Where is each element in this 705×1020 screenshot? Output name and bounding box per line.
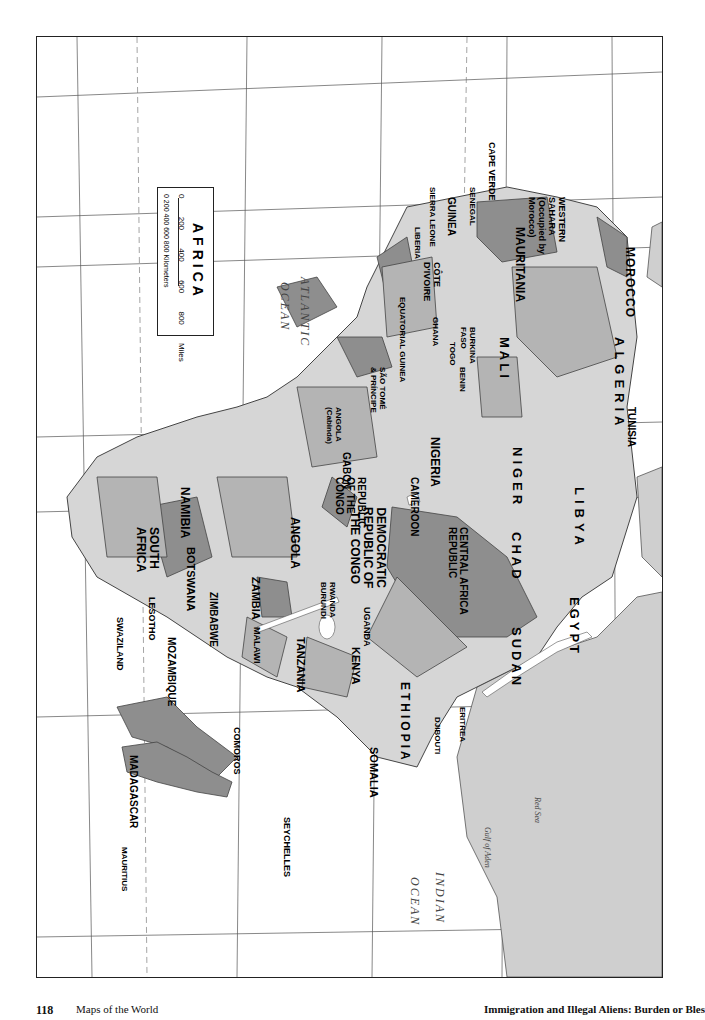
label-algeria: ALGERIA [612, 337, 627, 431]
label-tunisia: TUNISIA [626, 407, 637, 447]
scale-km-0: 0 [163, 194, 170, 198]
legend-box: AFRICA 0 200 400 600 800 Miles 0 200 400… [157, 187, 214, 336]
label-car-line2: REPUBLIC [447, 527, 458, 578]
label-indian: INDIAN [432, 872, 447, 924]
label-drc-line1: DEMOCRATIC [374, 507, 388, 587]
label-ethiopia: ETHIOPIA [398, 682, 412, 763]
label-mauritania: MAURITANIA [513, 227, 527, 302]
label-niger: NIGER [510, 447, 525, 508]
label-atlantic-ocean: OCEAN [277, 282, 292, 331]
label-nigeria: NIGERIA [428, 437, 442, 487]
label-st-line1: SÃO TOMÉ [378, 367, 387, 410]
label-chad: CHAD [509, 532, 524, 582]
scale-km: 0 200 400 600 800 Kilometers [163, 194, 170, 287]
label-cabinda-line2: (Cabinda) [325, 407, 334, 444]
label-zambia: ZAMBIA [250, 577, 262, 620]
label-cote-divoire: CÔTED'IVOIRE [422, 262, 442, 301]
label-rwanda-burundi: RWANDABURUNDI [319, 582, 337, 619]
label-gabon: GABON [341, 452, 352, 489]
label-south-africa: SOUTHAFRICA [134, 527, 160, 572]
label-ws-line3: (Occupied by [537, 197, 547, 254]
label-malawi: MALAWI [252, 627, 262, 664]
scale-km-800: 800 Kilometers [163, 241, 170, 288]
label-burundi: BURUNDI [319, 582, 328, 619]
label-cabinda: ANGOLA(Cabinda) [325, 407, 343, 444]
label-eq-guinea: EQUATORIAL GUINEA [398, 297, 407, 382]
label-indian-ocean: OCEAN [407, 877, 422, 926]
label-western-sahara: WESTERNSAHARA(Occupied byMorocco) [527, 197, 567, 254]
label-cabinda-line1: ANGOLA [334, 407, 343, 442]
label-ci-line1: CÔTE [432, 262, 442, 287]
label-rwanda: RWANDA [328, 582, 337, 618]
scale-km-600: 600 [163, 227, 170, 239]
label-ws-line4: Morocco) [527, 197, 537, 238]
page-number: 118 [36, 1003, 53, 1018]
label-mozambique: MOZAMBIQUE [166, 637, 177, 706]
legend-title: AFRICA [190, 223, 206, 300]
scale-miles-800: 800 Miles [177, 311, 186, 361]
label-benin: BENIN [458, 367, 467, 392]
label-namibia: NAMIBIA [178, 487, 192, 538]
label-sudan: SUDAN [509, 627, 524, 688]
label-sa-line1: SOUTH [147, 527, 161, 569]
label-togo: TOGO [448, 342, 457, 365]
label-seychelles: SEYCHELLES [282, 817, 292, 877]
label-cape-verde: CAPE VERDE [487, 142, 497, 201]
label-uganda: UGANDA [362, 607, 372, 647]
label-guinea: GUINEA [446, 197, 457, 236]
label-congo-line1: REPUBLIC [356, 477, 367, 528]
label-car: CENTRAL AFRICAREPUBLIC [447, 527, 469, 615]
label-madagascar: MADAGASCAR [128, 755, 139, 828]
label-senegal: SENEGAL [468, 187, 477, 226]
label-atlantic: ATLANTIC [297, 277, 312, 347]
label-tanzania: TANZANIA [295, 637, 307, 692]
label-swaziland: SWAZILAND [115, 617, 125, 671]
label-bf-line1: BURKINA [468, 327, 477, 364]
label-sao-tome: SÃO TOMÉ& PRÍNCIPE [369, 367, 387, 413]
label-somalia: SOMALIA [368, 747, 380, 798]
label-burkina: BURKINAFASO [459, 327, 477, 364]
label-gulf-of-aden: Gulf of Aden [483, 827, 492, 868]
label-djibouti: DJIBOUTI [433, 717, 442, 754]
scale-bar [178, 198, 179, 286]
scale-km-200: 200 [163, 200, 170, 212]
page-footer: 118 Maps of the World Immigration and Il… [36, 1003, 699, 1019]
label-botswana: BOTSWANA [185, 547, 197, 611]
label-liberia: LIBERIA [413, 227, 422, 259]
label-kenya: KENYA [350, 647, 362, 685]
label-comoros: COMOROS [232, 727, 242, 775]
label-morocco: MOROCCO [623, 247, 637, 318]
label-sa-line2: AFRICA [134, 527, 148, 572]
label-eritrea: ERITREA [458, 707, 467, 742]
label-libya: LIBYA [572, 487, 587, 550]
label-mali: MALI [497, 337, 512, 381]
scale-km-400: 400 [163, 214, 170, 226]
label-bf-line2: FASO [459, 327, 468, 349]
label-ws-line1: WESTERN [557, 197, 567, 242]
label-ghana: GHANA [431, 317, 440, 346]
map-frame: MOROCCO ALGERIA TUNISIA LIBYA EGYPT MAUR… [36, 36, 663, 978]
label-cameroon: CAMEROON [409, 477, 420, 536]
label-st-line2: & PRÍNCIPE [369, 367, 378, 413]
label-mauritius: MAURITIUS [120, 847, 129, 891]
label-angola: ANGOLA [288, 517, 302, 569]
label-ci-line2: D'IVOIRE [422, 262, 432, 301]
label-ws-line2: SAHARA [547, 197, 557, 236]
book-title: Immigration and Illegal Aliens: Burden o… [484, 1003, 705, 1015]
label-car-line1: CENTRAL AFRICA [458, 527, 469, 615]
label-lesotho: LESOTHO [147, 597, 157, 641]
section-title: Maps of the World [76, 1003, 158, 1015]
label-sierra-leone: SIERRA LEONE [428, 187, 437, 247]
label-egypt: EGYPT [567, 597, 582, 656]
label-red-sea: Red Sea [533, 797, 542, 823]
label-zimbabwe: ZIMBABWE [208, 592, 219, 647]
